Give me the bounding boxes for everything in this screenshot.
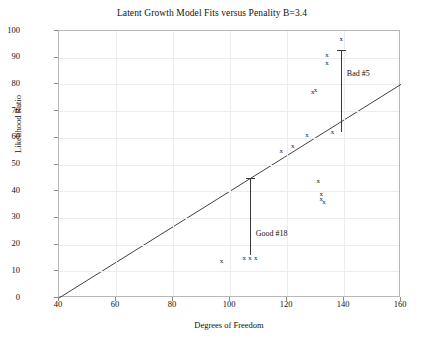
gridline-vertical — [287, 31, 288, 296]
y-axis-tick-mark — [54, 244, 58, 245]
gridline-horizontal — [59, 138, 399, 139]
gridline-horizontal — [59, 58, 399, 59]
data-point-marker: x — [322, 198, 326, 205]
x-axis-tick-label: 160 — [380, 300, 420, 309]
gridline-vertical — [230, 31, 231, 296]
y-axis-tick-label: 100 — [0, 26, 20, 35]
gridline-vertical — [116, 31, 117, 296]
residual-bar — [250, 178, 251, 255]
gridline-horizontal — [59, 245, 399, 246]
y-axis-tick-label: 60 — [0, 132, 20, 141]
x-axis-tick-mark — [58, 297, 59, 301]
gridline-horizontal — [59, 165, 399, 166]
residual-bar-cap — [246, 178, 255, 179]
data-point-marker: x — [314, 86, 318, 93]
y-axis-label: Likelihood Ratio — [13, 54, 23, 194]
data-point-marker: x — [243, 254, 247, 261]
data-point-marker: x — [248, 254, 252, 261]
data-point-marker: x — [317, 177, 321, 184]
x-axis-tick-mark — [400, 297, 401, 301]
plot-frame: xxxxxxxxxxxxxxxxxBad #5Good #18 — [58, 30, 400, 297]
y-axis-tick-label: 40 — [0, 186, 20, 195]
x-axis-tick-label: 60 — [95, 300, 135, 309]
x-axis-tick-mark — [172, 297, 173, 301]
data-point-marker: x — [325, 60, 329, 67]
y-axis-tick-mark — [54, 164, 58, 165]
y-axis-tick-mark — [54, 217, 58, 218]
data-point-marker: x — [339, 36, 343, 43]
plot-area: xxxxxxxxxxxxxxxxxBad #5Good #18 — [59, 31, 399, 296]
y-axis-tick-mark — [54, 110, 58, 111]
y-axis-tick-label: 70 — [0, 106, 20, 115]
gridline-vertical — [344, 31, 345, 296]
data-point-marker: x — [254, 254, 258, 261]
data-point-marker: x — [331, 129, 335, 136]
data-point-marker: x — [291, 142, 295, 149]
gridline-horizontal — [59, 191, 399, 192]
x-axis-tick-label: 80 — [152, 300, 192, 309]
data-point-marker: x — [325, 52, 329, 59]
residual-bar-cap — [337, 50, 346, 51]
x-axis-label: Degrees of Freedom — [58, 320, 400, 330]
y-axis-tick-mark — [54, 83, 58, 84]
gridline-horizontal — [59, 111, 399, 112]
y-axis-tick-label: 80 — [0, 79, 20, 88]
x-axis-tick-label: 140 — [323, 300, 363, 309]
x-axis-tick-mark — [343, 297, 344, 301]
y-axis-tick-mark — [54, 270, 58, 271]
x-axis-tick-mark — [286, 297, 287, 301]
x-axis-tick-label: 100 — [209, 300, 249, 309]
y-axis-tick-label: 10 — [0, 266, 20, 275]
data-point-marker: x — [280, 148, 284, 155]
gridline-horizontal — [59, 84, 399, 85]
x-axis-tick-label: 120 — [266, 300, 306, 309]
x-axis-tick-mark — [115, 297, 116, 301]
annotation-label: Good #18 — [256, 229, 288, 238]
y-axis-tick-label: 90 — [0, 52, 20, 61]
chart-screenshot: Latent Growth Model Fits versus Penality… — [0, 0, 424, 348]
x-axis-tick-label: 40 — [38, 300, 78, 309]
y-axis-tick-mark — [54, 137, 58, 138]
data-point-marker: x — [305, 132, 309, 139]
residual-bar — [341, 50, 342, 133]
y-axis-tick-label: 0 — [0, 293, 20, 302]
y-axis-tick-mark — [54, 57, 58, 58]
y-axis-tick-mark — [54, 190, 58, 191]
y-axis-tick-label: 50 — [0, 159, 20, 168]
y-axis-tick-mark — [54, 30, 58, 31]
y-axis-tick-label: 20 — [0, 239, 20, 248]
y-axis-tick-label: 30 — [0, 212, 20, 221]
gridline-horizontal — [59, 218, 399, 219]
annotation-label: Bad #5 — [347, 69, 370, 78]
chart-title: Latent Growth Model Fits versus Penality… — [0, 8, 424, 18]
data-point-marker: x — [220, 257, 224, 264]
gridline-vertical — [173, 31, 174, 296]
x-axis-tick-mark — [229, 297, 230, 301]
gridline-horizontal — [59, 271, 399, 272]
